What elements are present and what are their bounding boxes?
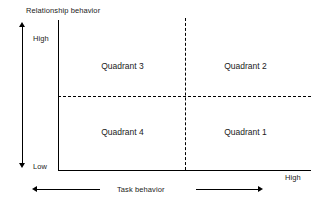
- horizontal-divider-dashed: [58, 96, 311, 97]
- x-arrow-left-shaft: [37, 189, 100, 190]
- x-arrow-right-icon: [258, 186, 263, 192]
- y-axis-title: Relationship behavior: [26, 7, 100, 15]
- quadrant-label-q1: Quadrant 1: [203, 128, 288, 137]
- x-axis-title: Task behavior: [117, 186, 165, 194]
- y-arrow-down-icon: [19, 163, 25, 168]
- quadrant-label-q3: Quadrant 3: [80, 62, 165, 71]
- y-axis-high-label: High: [33, 35, 49, 43]
- y-arrow-shaft: [22, 26, 23, 166]
- y-axis-low-label: Low: [33, 163, 47, 171]
- quadrant-label-q2: Quadrant 2: [203, 62, 288, 71]
- x-axis-high-label: High: [285, 174, 301, 182]
- quadrant-label-q4: Quadrant 4: [80, 128, 165, 137]
- quadrant-diagram: Relationship behavior High Low Quadrant …: [0, 0, 321, 198]
- vertical-divider-dashed: [185, 18, 186, 170]
- x-axis-line: [58, 170, 311, 171]
- x-arrow-right-shaft: [196, 189, 259, 190]
